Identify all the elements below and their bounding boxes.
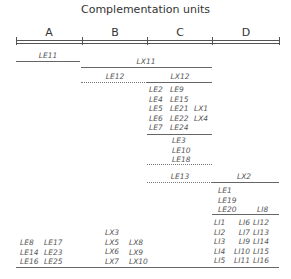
axis-tick [147, 37, 148, 45]
d-block1-line [212, 214, 279, 215]
segment-line-lx11 [81, 67, 212, 68]
segment-label-lx12: LX12 [171, 72, 190, 82]
mutant-label: LE3 [172, 136, 190, 146]
b-block-col1: LX3 LX5 LX6 LX7 [105, 228, 119, 266]
mutant-label: LX7 [105, 257, 119, 267]
mutant-label: LI3 [214, 237, 225, 247]
axis-tick [16, 37, 17, 45]
d-block2-col3: LI12 LI13 LI14 LI15 LI16 [253, 218, 269, 266]
segment-label-lx2: LX2 [237, 172, 251, 182]
mutant-label: LX1 [194, 104, 208, 114]
a-block-col1: LE8 LE14 LE16 [20, 238, 38, 267]
mutant-label: LX10 [129, 257, 148, 267]
a-block-col2: LE17 LE23 LE25 [44, 238, 62, 267]
d-block1: LE1 LE19 LE20 [218, 186, 236, 215]
mutant-label: LE1 [218, 186, 236, 196]
mutant-label: LI9 [239, 237, 250, 247]
mutant-label: LX9 [129, 248, 148, 258]
d-block2-col1: LI1 LI2 LI3 LI4 LI5 [214, 218, 225, 266]
segment-label-le12: LE12 [106, 72, 124, 82]
column-header-b: B [111, 26, 119, 39]
mutant-label: LE15 [170, 95, 188, 105]
mutant-label: LE9 [170, 85, 188, 95]
c-block1-col1: LE2 LE4 LE5 LE6 LE7 [149, 85, 163, 133]
c-block2: LE3 LE10 LE18 [172, 136, 190, 165]
c-block1-col2: LE9 LE15 LE21 LE22 LE24 [170, 85, 188, 133]
mutant-label: LE19 [218, 196, 236, 206]
mutant-label: LE8 [20, 238, 38, 248]
mutant-label: LE10 [172, 146, 190, 156]
mutant-label: LX8 [129, 238, 148, 248]
mutant-label: LI7 [239, 228, 250, 238]
mutant-label: LX4 [194, 114, 208, 124]
mutant-label: LE2 [149, 85, 163, 95]
mutant-label: LI1 [214, 218, 225, 228]
ab-block-line [16, 267, 212, 268]
mutant-label: LE23 [44, 248, 62, 258]
mutant-label: LE14 [20, 248, 38, 258]
column-header-d: D [242, 26, 250, 39]
segment-line-lx12 [147, 82, 212, 83]
mutant-label: LE16 [20, 257, 38, 267]
segment-line-lx2 [212, 182, 279, 183]
segment-label-le11: LE11 [39, 51, 57, 61]
diagram-title: Complementation units [0, 3, 291, 16]
axis-tick [279, 37, 280, 45]
mutant-label: LE22 [170, 114, 188, 124]
mutant-label: LX5 [105, 238, 119, 248]
mutant-label: LI2 [214, 228, 225, 238]
mutant-label: LI4 [214, 247, 225, 257]
mutant-label: LE7 [149, 123, 163, 133]
axis-tick [212, 37, 213, 45]
mutant-label: LI10 [234, 247, 250, 257]
mutant-label: LX6 [105, 247, 119, 257]
axis-tick [82, 37, 83, 45]
mutant-label: LE24 [170, 123, 188, 133]
mutant-label: LI12 [253, 218, 269, 228]
mutant-label: LE25 [44, 257, 62, 267]
segment-line-le13 [147, 182, 212, 183]
c-block1-col3: LX1 LX4 [194, 104, 208, 123]
c-block2-line [147, 164, 212, 165]
mutant-label: LE4 [149, 95, 163, 105]
d-block2-line [212, 267, 279, 268]
d-block2-col2: LI6 LI7 LI9 LI10 LI11 [228, 218, 250, 266]
segment-line-le12 [81, 82, 147, 83]
mutant-label: LX3 [105, 228, 119, 238]
segment-line-le11 [16, 61, 80, 62]
mutant-label: LI6 [239, 218, 250, 228]
mutant-label: LE6 [149, 114, 163, 124]
mutant-label: LI11 [234, 256, 250, 266]
mutant-label: LI5 [214, 256, 225, 266]
segment-label-lx11: LX11 [137, 57, 156, 67]
segment-label-le13: LE13 [171, 172, 189, 182]
column-header-c: C [176, 26, 184, 39]
mutant-label: LI16 [253, 256, 269, 266]
b-block-col2: LX8 LX9 LX10 [129, 238, 148, 267]
mutant-label: LI13 [253, 228, 269, 238]
mutant-label: LI14 [253, 237, 269, 247]
column-header-a: A [45, 26, 53, 39]
c-block1-line [147, 134, 212, 135]
mutant-label: LE17 [44, 238, 62, 248]
mutant-label: LI15 [253, 247, 269, 257]
mutant-label: LE5 [149, 104, 163, 114]
mutant-label: LE21 [170, 104, 188, 114]
